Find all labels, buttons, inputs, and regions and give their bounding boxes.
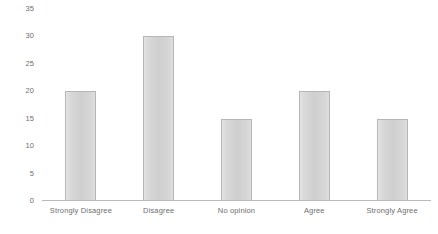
- bar: [221, 119, 252, 201]
- bar: [143, 36, 174, 201]
- x-tick-label: Strongly Disagree: [50, 206, 112, 215]
- y-tick-label: 30: [25, 31, 34, 40]
- x-tick-label: Disagree: [143, 206, 174, 215]
- x-tick-label: Agree: [304, 206, 325, 215]
- y-tick-label: 35: [25, 4, 34, 13]
- y-tick-label: 25: [25, 58, 34, 67]
- x-axis-line: [42, 200, 431, 201]
- x-tick-label: No opinion: [218, 206, 255, 215]
- y-axis: 05101520253035: [0, 0, 40, 234]
- bar: [299, 91, 330, 201]
- x-axis: Strongly DisagreeDisagreeNo opinionAgree…: [42, 203, 431, 223]
- y-tick-label: 0: [30, 196, 34, 205]
- bar: [65, 91, 96, 201]
- y-tick-label: 15: [25, 113, 34, 122]
- y-tick-label: 5: [30, 168, 34, 177]
- bar-chart: 05101520253035 Strongly DisagreeDisagree…: [0, 0, 438, 234]
- bar: [377, 119, 408, 201]
- y-tick-label: 10: [25, 141, 34, 150]
- x-tick-label: Strongly Agree: [366, 206, 417, 215]
- plot-area: [42, 8, 431, 201]
- y-tick-label: 20: [25, 86, 34, 95]
